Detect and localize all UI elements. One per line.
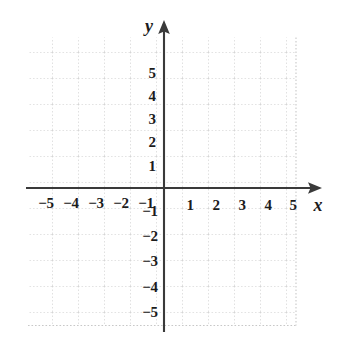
- coordinate-plane-figure: −5 −4 −3 −2 −1 1 2 3 4 5 5 4 3 2 1 −1 −2…: [0, 0, 338, 350]
- y-tick-label-neg-4: −4: [142, 280, 157, 295]
- x-tick-label-3: 3: [238, 198, 245, 213]
- y-tick-label-neg-2: −2: [142, 229, 157, 244]
- y-tick-label-neg-3: −3: [142, 254, 157, 269]
- x-axis-name-label: x: [314, 196, 323, 214]
- y-tick-label-1: 1: [148, 159, 155, 174]
- x-tick-label-neg-2: −2: [113, 196, 128, 211]
- y-tick-label-4: 4: [148, 89, 155, 104]
- y-axis-line: [158, 20, 170, 332]
- x-tick-label-4: 4: [264, 198, 271, 213]
- x-tick-label-neg-5: −5: [38, 196, 53, 211]
- y-axis-name-label: y: [145, 17, 153, 35]
- y-tick-label-neg-5: −5: [142, 305, 157, 320]
- x-tick-label-neg-4: −4: [63, 196, 78, 211]
- x-tick-label-5: 5: [289, 198, 296, 213]
- y-tick-label-2: 2: [148, 135, 155, 150]
- y-tick-label-5: 5: [148, 66, 155, 81]
- x-tick-label-neg-3: −3: [88, 196, 103, 211]
- y-tick-label-neg-1: −1: [142, 204, 157, 219]
- x-tick-label-1: 1: [186, 198, 193, 213]
- axes-layer: [0, 0, 338, 350]
- x-tick-label-2: 2: [212, 198, 219, 213]
- x-axis-line: [26, 182, 322, 194]
- y-tick-label-3: 3: [148, 112, 155, 127]
